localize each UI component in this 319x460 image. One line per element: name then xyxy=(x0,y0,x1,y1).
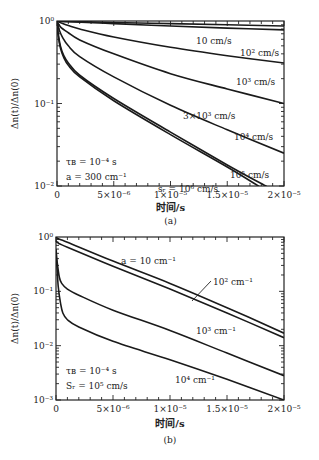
annotation: τʙ = 10⁻⁴ s xyxy=(66,157,117,167)
x-tick-label: 5×10⁻⁶ xyxy=(97,190,130,200)
panel-caption: (a) xyxy=(164,216,176,226)
x-axis-label: 时间/s xyxy=(156,201,186,213)
series-line-2 xyxy=(56,249,284,376)
series-label: 10³ cm/s xyxy=(236,77,276,87)
series-label: 10⁴ cm/s xyxy=(234,132,274,142)
series-label: 10 cm/s xyxy=(196,36,232,46)
y-tick-label: 10⁻² xyxy=(34,181,54,191)
series-label: 10³ cm⁻¹ xyxy=(196,326,236,336)
chart-panel-a: 05×10⁻⁶1×10⁻⁵1.5×10⁻⁵2×10⁻⁵10⁰10⁻¹10⁻²时间… xyxy=(10,16,301,226)
chart-svg: 05×10⁻⁶1×10⁻⁵1.5×10⁻⁵2×10⁻⁵10⁰10⁻¹10⁻²时间… xyxy=(0,0,319,460)
x-tick-label: 0 xyxy=(53,404,59,414)
y-tick-label: 10⁻¹ xyxy=(33,286,53,296)
leader-line xyxy=(192,281,211,301)
y-tick-label: 10⁻² xyxy=(33,341,53,351)
x-tick-label: 2×10⁻⁵ xyxy=(267,404,300,414)
y-axis-label: Δn(t)/Δn(0) xyxy=(10,293,20,344)
y-tick-label: 10⁰ xyxy=(39,16,54,26)
figure: 05×10⁻⁶1×10⁻⁵1.5×10⁻⁵2×10⁻⁵10⁰10⁻¹10⁻²时间… xyxy=(0,0,319,460)
x-tick-label: 5×10⁻⁶ xyxy=(96,404,129,414)
chart-panel-b: 05×10⁻⁶1×10⁻⁵1.5×10⁻⁵2×10⁻⁵10⁰10⁻¹10⁻²10… xyxy=(10,232,301,445)
series-label: 10² cm/s xyxy=(240,48,280,58)
series-line-3 xyxy=(57,21,284,104)
x-axis-label: 时间/s xyxy=(155,417,185,429)
annotation: Sᵣ = 10⁵ cm/s xyxy=(66,381,128,391)
series-line-3 xyxy=(56,253,284,400)
series-label: 10⁵ cm/s xyxy=(230,170,270,180)
y-tick-label: 10⁻³ xyxy=(33,395,53,405)
series-label: sᵣ = 10⁶ cm/s xyxy=(158,184,219,194)
x-tick-label: 1×10⁻⁵ xyxy=(153,404,186,414)
panel-caption: (b) xyxy=(164,435,177,445)
x-tick-label: 2×10⁻⁵ xyxy=(267,190,300,200)
series-label: a = 10 cm⁻¹ xyxy=(121,256,176,266)
x-tick-label: 1.5×10⁻⁵ xyxy=(206,404,248,414)
series-label: 10² cm⁻¹ xyxy=(213,277,253,287)
series-label: 3×10³ cm/s xyxy=(183,111,236,121)
annotation: τʙ = 10⁻⁴ s xyxy=(66,366,117,376)
annotation: a = 300 cm⁻¹ xyxy=(66,172,127,182)
series-label: 10⁴ cm⁻¹ xyxy=(175,375,215,385)
y-axis-label: Δn(t)/Δn(0) xyxy=(10,78,20,129)
x-tick-label: 0 xyxy=(54,190,60,200)
y-tick-label: 10⁰ xyxy=(38,232,53,242)
y-tick-label: 10⁻¹ xyxy=(34,99,54,109)
